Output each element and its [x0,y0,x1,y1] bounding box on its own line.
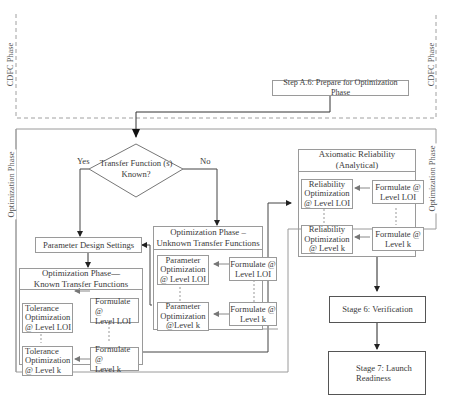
axiomatic-opt-top-line3: @ Level LOI [304,199,350,209]
reliability-optimization-loi-box[interactable]: Reliability Optimization @ Level LOI [301,179,353,209]
unknown-opt-top-line3: @ Level LOI [160,275,206,285]
parameter-design-settings-label: Parameter Design Settings [43,240,134,251]
parameter-optimization-loi-box[interactable]: Parameter Optimization @ Level LOI [157,255,209,285]
reliability-optimization-k-box[interactable]: Reliability Optimization @ Level k [301,225,353,254]
tolerance-optimization-loi-box[interactable]: Tolerance Optimization @ Level LOI [22,303,73,333]
known-form-top-line2: Level LOI [95,316,138,326]
tolerance-optimization-k-box[interactable]: Tolerance Optimization @ Level k [22,346,73,376]
unknown-form-bottom-line2: Level k [230,314,275,324]
known-form-bottom-line1: Formulate @ [95,344,138,364]
axiomatic-form-bottom-line1: Formulate @ [375,229,420,239]
axiomatic-form-bottom-line2: Level k [375,239,420,249]
axiomatic-reliability-title: Axiomatic Reliability (Analytical) [298,149,416,172]
parameter-optimization-k-box[interactable]: Parameter Optimization @Level k [157,302,209,331]
axiomatic-form-top-line1: Formulate @ [375,182,420,192]
axiomatic-formulate-k-box[interactable]: Formulate @ Level k [372,227,424,251]
decision-transfer-function-known[interactable]: Transfer Function (s) Known? [96,158,176,179]
known-form-bottom-line2: Level k [95,364,138,374]
known-tf-title-line2: Known Transfer Functions [34,279,128,290]
known-formulate-loi-box[interactable]: Formulate @ Level LOI [90,298,139,323]
cdfc-phase-label-left: CDFC Phase [6,43,15,87]
no-label: No [200,156,211,167]
unknown-formulate-loi-box[interactable]: Formulate @ Level LOI [229,257,277,281]
unknown-formulate-k-box[interactable]: Formulate @ Level k [229,302,277,326]
stage7-launch-readiness-box[interactable]: Stage 7: Launch Readiness [328,351,426,395]
stage6-verification-box[interactable]: Stage 6: Verification [329,296,426,323]
optimization-phase-label-right: Optimization Phase [428,144,437,214]
unknown-form-bottom-line1: Formulate @ [230,304,275,314]
decision-line1: Transfer Function (s) [96,158,176,169]
unknown-opt-bottom-line3: @Level k [160,321,205,331]
known-formulate-k-box[interactable]: Formulate @ Level k [90,347,139,371]
stage6-label: Stage 6: Verification [342,304,412,315]
decision-line2: Known? [96,169,176,180]
unknown-tf-title-line2: Unknown Transfer Functions [156,238,259,249]
cdfc-phase-label-right: CDFC Phase [427,43,436,87]
unknown-form-top-line2: Level LOI [230,269,275,279]
known-opt-bottom-line3: @ Level k [25,366,70,376]
unknown-tf-title: Optimization Phase – Unknown Transfer Fu… [153,226,263,250]
known-tf-title-line1: Optimization Phase— [34,268,128,279]
axiomatic-opt-bottom-line3: @ Level k [304,244,349,254]
known-form-top-line1: Formulate @ [95,296,138,316]
optimization-phase-label-left: Optimization Phase [7,150,16,220]
step-a6-box[interactable]: Step A.6: Prepare for Optimization Phase [272,80,409,96]
axiomatic-form-top-line2: Level LOI [375,192,420,202]
stage7-line2: Readiness [356,373,412,384]
stage7-line1: Stage 7: Launch [356,363,412,374]
known-opt-top-line3: @ Level LOI [25,323,71,333]
step-a6-label: Step A.6: Prepare for Optimization Phase [273,78,408,99]
unknown-tf-title-line1: Optimization Phase – [156,227,259,238]
known-tf-title: Optimization Phase— Known Transfer Funct… [19,268,143,290]
axiomatic-formulate-loi-box[interactable]: Formulate @ Level LOI [372,180,424,204]
unknown-form-top-line1: Formulate @ [230,259,275,269]
yes-label: Yes [77,156,90,167]
parameter-design-settings-box[interactable]: Parameter Design Settings [35,237,142,253]
